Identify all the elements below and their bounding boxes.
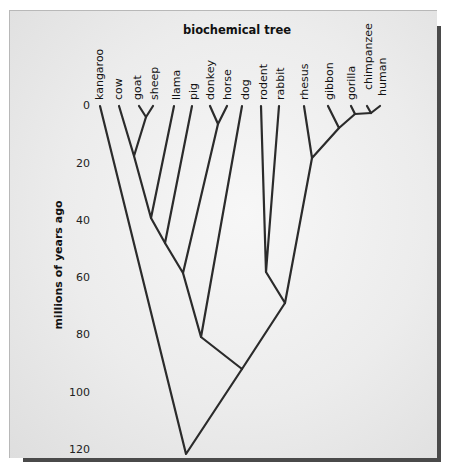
leaf-label: gibbon <box>323 62 336 100</box>
tree-diagram: biochemical tree kangaroo cow goat sheep… <box>0 0 451 467</box>
y-tick: 120 <box>69 443 90 456</box>
y-tick: 20 <box>76 157 90 170</box>
y-tick: 100 <box>69 386 90 399</box>
branch <box>261 106 279 272</box>
leaf-label: horse <box>221 69 234 100</box>
leaf-label: llama <box>170 70 183 100</box>
branch <box>119 106 146 156</box>
branch <box>210 106 227 124</box>
branch <box>328 106 355 128</box>
branch <box>201 303 285 369</box>
branch <box>134 106 174 218</box>
y-axis-label: millions of years ago <box>52 200 65 330</box>
leaf-label: chimpanzee <box>362 23 375 90</box>
leaf-label: dog <box>239 79 252 100</box>
y-tick: 60 <box>76 271 90 284</box>
leaf-label: rabbit <box>274 67 287 100</box>
tree-branches <box>100 106 380 454</box>
branch <box>139 106 153 117</box>
y-tick: 80 <box>76 328 90 341</box>
y-axis: 0 20 40 60 80 100 120 millions of years … <box>52 99 90 456</box>
leaf-label: gorilla <box>345 66 358 100</box>
branch <box>183 106 242 337</box>
branch <box>367 106 380 113</box>
leaf-label: rodent <box>257 63 270 100</box>
y-tick: 40 <box>76 214 90 227</box>
y-tick: 0 <box>83 99 90 112</box>
leaf-label: sheep <box>148 67 161 100</box>
leaf-label: donkey <box>204 60 217 100</box>
leaf-label: human <box>376 58 389 96</box>
leaf-label: goat <box>131 75 144 100</box>
branch <box>304 106 339 158</box>
leaf-label: cow <box>112 78 125 100</box>
leaf-label: rhesus <box>298 63 311 100</box>
branch <box>151 106 192 243</box>
leaf-label: pig <box>187 83 200 100</box>
leaf-label: kangaroo <box>93 48 106 100</box>
figure-title: biochemical tree <box>183 23 291 37</box>
branch <box>100 106 242 454</box>
